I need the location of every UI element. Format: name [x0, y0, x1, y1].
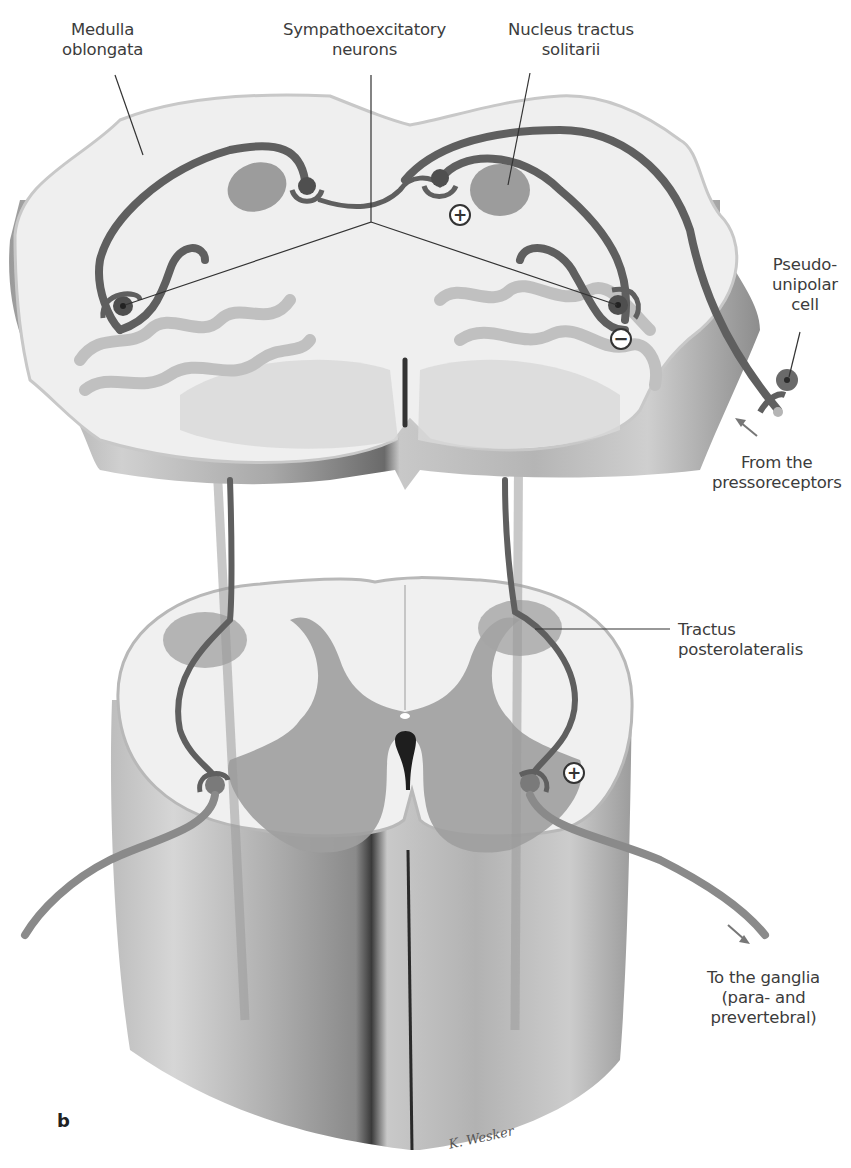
- medulla-spinal-cord-diagram: + − + Medullaoblongata Sympathoexcitator…: [0, 0, 851, 1168]
- arrow-from-pressoreceptors-icon: [735, 418, 757, 436]
- excitatory-sign-nts: +: [449, 204, 471, 226]
- label-nucleus-tractus-solitarii: Nucleus tractussolitarii: [508, 20, 634, 60]
- panel-letter: b: [57, 1110, 70, 1131]
- tractus-posterolateralis-left: [163, 612, 247, 668]
- leader-pseudounipolar: [789, 332, 800, 377]
- inhibitory-sign-medulla: −: [610, 328, 632, 350]
- label-pseudounipolar-cell: Pseudo-unipolarcell: [772, 255, 838, 315]
- label-to-the-ganglia: To the ganglia(para- andprevertebral): [707, 968, 820, 1028]
- label-sympathoexcitatory-neurons: Sympathoexcitatoryneurons: [283, 20, 446, 60]
- label-tractus-posterolateralis: Tractusposterolateralis: [678, 620, 803, 660]
- nucleus-tractus-solitarii: [470, 164, 530, 216]
- arrow-to-ganglia-icon: [728, 925, 750, 944]
- excitatory-sign-spinal: +: [563, 762, 585, 784]
- label-from-pressoreceptors: From thepressoreceptors: [712, 453, 842, 493]
- label-medulla-oblongata: Medullaoblongata: [62, 20, 143, 60]
